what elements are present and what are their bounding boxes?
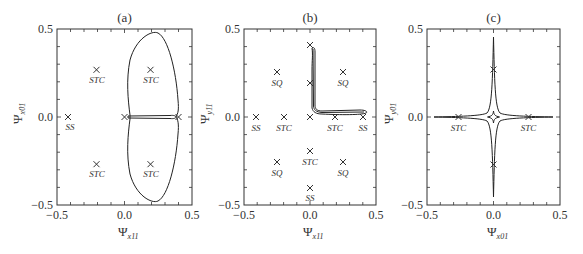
cross-marker-icon [307,42,313,48]
panel-c-xtick: 0.0 [486,208,501,222]
panel-c-ytick: 0.5 [408,22,423,36]
point-label: STC [143,75,160,85]
cross-marker-icon [307,114,313,120]
point-label: SQ [272,78,284,88]
cross-marker-icon [65,114,71,120]
panel-a-inner-loop [128,115,176,118]
panel-b-xtick: 0.5 [369,208,384,222]
cross-marker-icon [94,67,100,73]
panel-b-title: (b) [302,10,317,25]
cross-marker-icon [360,114,366,120]
cross-marker-icon [491,162,497,168]
panel-b-ytick: 0.0 [225,110,240,124]
cross-marker-icon [456,114,462,120]
panel-a-title: (a) [117,10,131,25]
panel-b-ylabel: Ψy11 [197,103,214,124]
point-label: SQ [272,168,284,178]
panel-b-xtick: 0.0 [303,208,318,222]
panel-c-star-inner [488,111,500,123]
panel-a-ytick: −0.5 [31,198,53,212]
panel-a-ylabel: Ψx01 [10,103,27,124]
panel-c-xtick: 0.5 [553,208,568,222]
cross-marker-icon [340,159,346,165]
cross-marker-icon [307,185,313,191]
panel-c-ytick: −0.5 [401,198,423,212]
point-label: SS [359,123,369,133]
panel-c-markers [456,67,532,168]
cross-marker-icon [526,114,532,120]
panel-c-star-curve [434,37,553,197]
point-label: SQ [338,168,350,178]
panel-b-ytick: −0.5 [218,198,240,212]
point-label: STC [302,157,319,167]
point-label: STC [451,123,468,133]
panel-c-ytick: 0.0 [408,110,423,124]
panel-a: (a) −0.5 0.0 0.5 −0.5 0.0 0.5 Ψx11 Ψx01 … [10,10,200,241]
cross-marker-icon [307,148,313,154]
cross-marker-icon [148,67,154,73]
point-label: STC [327,123,344,133]
point-label: SS [306,193,316,203]
cross-marker-icon [253,114,259,120]
cross-marker-icon [122,114,128,120]
panel-a-ytick: 0.5 [38,22,53,36]
panel-c: (c) −0.5 0.0 0.5 −0.5 0.0 0.5 Ψx01 Ψy01 … [381,10,568,241]
panel-a-xtick: 0.0 [117,208,132,222]
point-label: SS [66,122,76,132]
figure: (a) −0.5 0.0 0.5 −0.5 0.0 0.5 Ψx11 Ψx01 … [0,0,583,254]
panel-b-xlabel: Ψx11 [303,224,324,241]
panel-b-markers [253,42,366,191]
panel-a-xtick: 0.5 [185,208,200,222]
panel-a-xlabel: Ψx11 [118,224,139,241]
panel-b-ytick: 0.5 [225,22,240,36]
panel-c-ylabel: Ψy01 [381,103,398,124]
cross-marker-icon [148,161,154,167]
panel-c-title: (c) [486,10,500,25]
cross-marker-icon [491,67,497,73]
cross-marker-icon [274,159,280,165]
point-label: STC [143,169,160,179]
panel-a-markers [65,67,182,167]
point-label: STC [276,123,293,133]
point-label: STC [89,75,106,85]
cross-marker-icon [274,69,280,75]
point-label: STC [89,169,106,179]
cross-marker-icon [94,161,100,167]
point-label: STC [521,123,538,133]
panel-a-ytick: 0.0 [38,110,53,124]
cross-marker-icon [281,114,287,120]
point-label: SS [252,123,262,133]
point-label: SQ [338,78,350,88]
cross-marker-icon [340,69,346,75]
panel-c-xlabel: Ψx01 [487,224,508,241]
panel-b: (b) −0.5 0.0 0.5 −0.5 0.0 0.5 Ψx11 Ψy11 [197,10,384,241]
